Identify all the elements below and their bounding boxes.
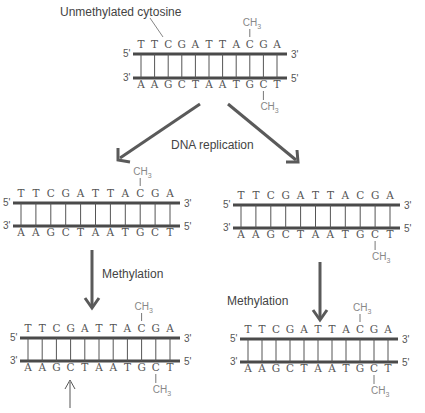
top-base: T (244, 323, 251, 335)
top-base: T (219, 38, 226, 50)
duplex-methylated-left: 5'3'3'5'TATACGGCATTATAATCGGCATCH3CH3 (10, 301, 192, 397)
bottom-base: C (62, 226, 70, 238)
bottom-base: C (286, 362, 294, 374)
bottom-base: T (300, 362, 307, 374)
end-label-3-bottom: 3' (3, 220, 11, 231)
top-base: C (47, 187, 55, 199)
top-base: G (178, 38, 186, 50)
dna-methylation-diagram: Unmethylated cytosine 5'3'3'5'TATACGGCAT… (0, 0, 425, 413)
bottom-base: A (311, 228, 320, 240)
top-base: T (110, 322, 117, 334)
methyl-group-bottom: CH3 (371, 385, 389, 398)
end-label-5-bottom: 5' (184, 356, 192, 367)
methylation-label-left: Methylation (102, 267, 163, 281)
top-base: T (314, 323, 321, 335)
bottom-base: C (67, 361, 75, 373)
bottom-base: A (108, 361, 117, 373)
methyl-group-bottom: CH3 (372, 251, 390, 264)
top-base: T (24, 322, 31, 334)
top-base: A (385, 189, 394, 201)
top-base: T (151, 38, 158, 50)
top-base: A (76, 187, 85, 199)
top-base: T (107, 187, 114, 199)
top-base: G (370, 323, 378, 335)
end-label-3-top: 3' (404, 200, 412, 211)
end-label-3-bottom: 3' (230, 356, 238, 367)
top-base: A (341, 323, 350, 335)
top-base: A (299, 323, 308, 335)
bottom-base: T (342, 362, 349, 374)
bottom-base: T (386, 228, 393, 240)
bottom-base: G (47, 226, 55, 238)
top-base: T (95, 322, 102, 334)
methyl-group-bottom: CH3 (260, 101, 278, 114)
bottom-base: G (267, 228, 275, 240)
bottom-base: T (192, 78, 199, 90)
bottom-base: A (16, 226, 25, 238)
bottom-base: G (52, 361, 60, 373)
bottom-base: T (297, 228, 304, 240)
bottom-base: G (136, 226, 144, 238)
bottom-base: G (272, 362, 280, 374)
bottom-base: A (31, 226, 40, 238)
bottom-base: T (166, 226, 173, 238)
end-label-3-bottom: 3' (10, 355, 18, 366)
end-label-5-bottom: 5' (402, 357, 410, 368)
bottom-base: T (273, 78, 280, 90)
bottom-base: A (218, 78, 227, 90)
end-label-3-bottom: 3' (123, 72, 131, 83)
dna-replication-label: DNA replication (171, 138, 254, 152)
top-base: T (252, 189, 259, 201)
bottom-base: A (37, 361, 46, 373)
bottom-base: A (23, 361, 32, 373)
bottom-base: T (342, 228, 349, 240)
top-base: T (17, 187, 24, 199)
bottom-base: T (384, 362, 391, 374)
end-label-3-top: 3' (184, 333, 192, 344)
methyl-group-top: CH3 (133, 166, 151, 179)
top-base: A (121, 187, 130, 199)
top-base: T (137, 38, 144, 50)
top-base: C (138, 322, 146, 334)
end-label-3-bottom: 3' (223, 222, 231, 233)
top-base: C (356, 189, 364, 201)
top-base: A (296, 189, 305, 201)
top-base: A (165, 187, 174, 199)
bottom-base: C (282, 228, 290, 240)
methyl-group-bottom: CH3 (153, 384, 171, 397)
end-label-5-bottom: 5' (404, 223, 412, 234)
top-base: A (80, 322, 89, 334)
top-base: A (165, 322, 174, 334)
top-base: T (237, 189, 244, 201)
top-base: T (312, 189, 319, 201)
top-base: A (272, 38, 281, 50)
bottom-base: T (77, 226, 84, 238)
top-base: A (191, 38, 200, 50)
end-label-3-top: 3' (291, 49, 299, 60)
top-base: A (383, 323, 392, 335)
top-base: A (341, 189, 350, 201)
duplex-container: 5'3'3'5'TATACGGCATTATAATCGGCATCH3CH35'3'… (3, 17, 412, 398)
top-base: T (205, 38, 212, 50)
end-label-3-top: 3' (184, 198, 192, 209)
top-base: G (282, 189, 290, 201)
top-base: C (267, 189, 275, 201)
top-base: C (356, 323, 364, 335)
top-base: T (39, 322, 46, 334)
bottom-base: C (371, 228, 379, 240)
top-base: T (92, 187, 99, 199)
bottom-base: A (136, 78, 145, 90)
end-label-5-top: 5' (123, 48, 131, 59)
end-label-5-top: 5' (3, 197, 11, 208)
top-base: C (136, 187, 144, 199)
bottom-base: C (152, 361, 160, 373)
end-label-3-top: 3' (402, 334, 410, 345)
end-label-5-top: 5' (223, 199, 231, 210)
bottom-base: A (150, 78, 159, 90)
methyl-group-top: CH3 (135, 301, 153, 314)
end-label-5-top: 5' (230, 333, 238, 344)
top-base: G (66, 322, 74, 334)
bottom-base: A (236, 228, 245, 240)
methyl-group-top: CH3 (243, 17, 261, 30)
bottom-base: G (164, 78, 172, 90)
